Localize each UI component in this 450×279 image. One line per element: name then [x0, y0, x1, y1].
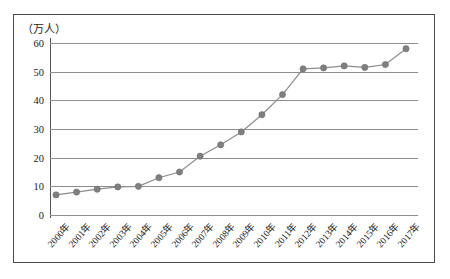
data-point-marker	[94, 186, 100, 192]
gridline	[50, 215, 418, 216]
x-axis-tick-labels: 2000年2001年2002年2003年2004年2005年2006年2007年…	[50, 217, 418, 263]
y-axis-tick-label: 60	[20, 38, 44, 49]
y-axis-tick-label: 40	[20, 95, 44, 106]
data-point-marker	[362, 64, 368, 70]
data-point-marker	[176, 169, 182, 175]
series-line	[56, 49, 406, 195]
data-point-marker	[238, 129, 244, 135]
line-chart-figure: （万人） 6050403020100 2000年2001年2002年2003年2…	[0, 0, 450, 279]
y-axis-tick-label: 0	[20, 210, 44, 221]
data-point-marker	[156, 175, 162, 181]
data-point-marker	[115, 184, 121, 190]
plot-area	[50, 43, 418, 215]
y-axis-tick-label: 30	[20, 124, 44, 135]
data-point-marker	[279, 92, 285, 98]
data-point-marker	[341, 63, 347, 69]
data-point-marker	[403, 46, 409, 52]
data-point-marker	[382, 61, 388, 67]
y-axis-tick-labels: 6050403020100	[18, 43, 44, 215]
data-point-marker	[53, 192, 59, 198]
y-axis-unit-label: （万人）	[22, 20, 66, 36]
y-axis-tick-label: 10	[20, 181, 44, 192]
data-point-marker	[300, 66, 306, 72]
data-point-marker	[197, 153, 203, 159]
data-point-marker	[259, 112, 265, 118]
data-point-marker	[218, 142, 224, 148]
data-point-marker	[74, 189, 80, 195]
y-axis-tick-label: 20	[20, 152, 44, 163]
data-point-marker	[135, 183, 141, 189]
series-line-svg	[50, 43, 418, 215]
data-point-marker	[321, 65, 327, 71]
y-axis-tick-label: 50	[20, 66, 44, 77]
